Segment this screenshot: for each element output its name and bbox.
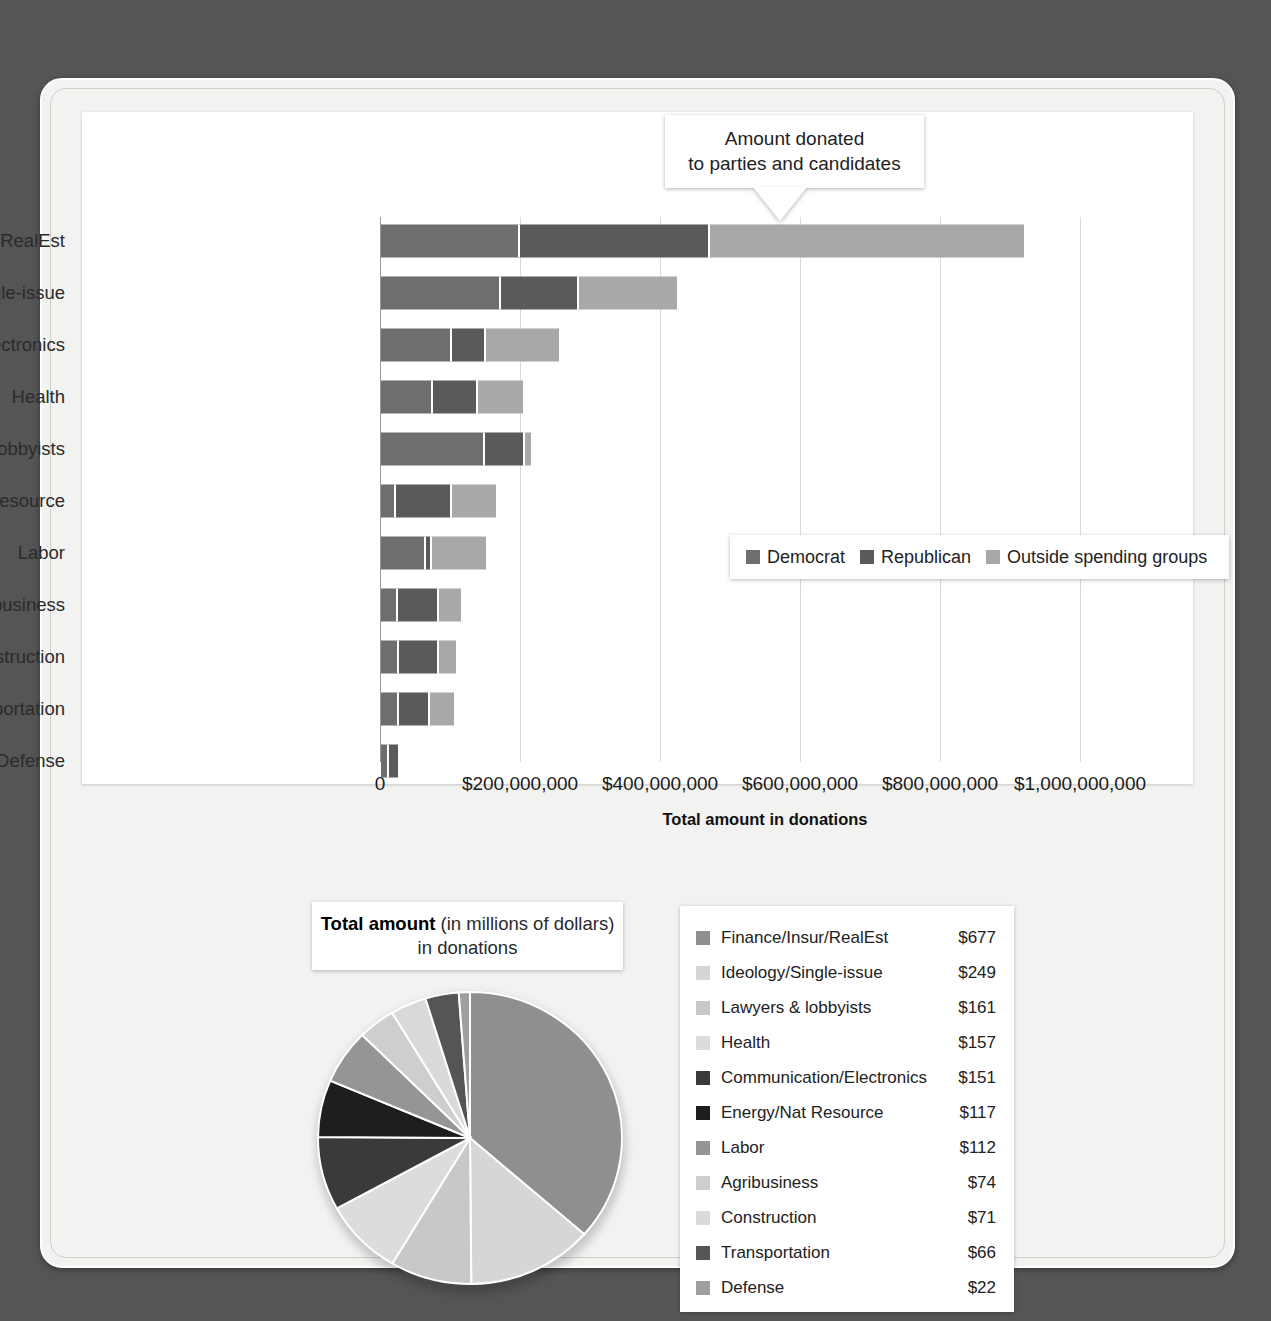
- pie-legend-value: $66: [942, 1243, 996, 1263]
- pie-legend-row: Communication/Electronics$151: [696, 1060, 996, 1095]
- bar-segment: [484, 329, 559, 362]
- bar-legend-item: Democrat: [746, 547, 845, 568]
- legend-swatch-icon: [696, 1281, 710, 1295]
- pie-chart: [310, 980, 630, 1300]
- bar-segment: [381, 589, 396, 622]
- pie-legend-row: Defense$22: [696, 1270, 996, 1305]
- bar-segment: [428, 693, 453, 726]
- bar-category-label: Agribusiness: [0, 594, 65, 616]
- gridline: [940, 217, 941, 762]
- bar-row: [381, 433, 531, 466]
- pie-legend-row: Ideology/Single-issue$249: [696, 955, 996, 990]
- pie-legend-label: Finance/Insur/RealEst: [721, 928, 942, 948]
- gridline: [800, 217, 801, 762]
- bar-segment: [381, 381, 431, 414]
- bar-segment: [518, 225, 708, 258]
- bar-row: [381, 225, 1024, 258]
- bar-row: [381, 693, 454, 726]
- legend-swatch-icon: [696, 966, 710, 980]
- legend-swatch-icon: [696, 1246, 710, 1260]
- pie-legend-value: $71: [942, 1208, 996, 1228]
- bar-segment: [381, 329, 450, 362]
- bar-legend-label: Outside spending groups: [1007, 547, 1207, 568]
- bar-chart-card: Finance/Insur/RealEstIdeology/Single-iss…: [82, 112, 1193, 784]
- pie-legend-value: $157: [942, 1033, 996, 1053]
- bar-segment: [381, 537, 424, 570]
- pie-title-line-2: in donations: [418, 937, 518, 958]
- x-axis-tick-label: $600,000,000: [742, 773, 858, 795]
- legend-swatch-icon: [696, 931, 710, 945]
- pie-chart-title: Total amount (in millions of dollars) in…: [312, 902, 623, 970]
- bar-segment: [476, 381, 523, 414]
- pie-legend-row: Labor$112: [696, 1130, 996, 1165]
- legend-swatch-icon: [696, 1141, 710, 1155]
- legend-swatch-icon: [696, 1106, 710, 1120]
- pie-legend-label: Ideology/Single-issue: [721, 963, 942, 983]
- bar-legend-item: Republican: [860, 547, 971, 568]
- bar-segment: [381, 485, 394, 518]
- x-axis-tick-label: 0: [375, 773, 386, 795]
- bar-segment: [430, 537, 487, 570]
- legend-swatch-icon: [986, 550, 1000, 564]
- callout-line-1: Amount donated: [725, 128, 864, 149]
- legend-swatch-icon: [746, 550, 760, 564]
- pie-legend-row: Construction$71: [696, 1200, 996, 1235]
- bar-segment: [437, 641, 456, 674]
- pie-legend-value: $74: [942, 1173, 996, 1193]
- bar-chart-callout: Amount donated to parties and candidates: [665, 115, 924, 188]
- bar-segment: [450, 329, 484, 362]
- bar-legend-item: Outside spending groups: [986, 547, 1207, 568]
- pie-legend-label: Labor: [721, 1138, 942, 1158]
- legend-swatch-icon: [696, 1211, 710, 1225]
- bar-category-label: Construction: [0, 646, 65, 668]
- bar-category-label: Energy/Natural Resource: [0, 490, 65, 512]
- pie-legend-row: Health$157: [696, 1025, 996, 1060]
- callout-arrow-icon: [753, 187, 807, 221]
- bar-segment: [381, 277, 499, 310]
- pie-legend-label: Construction: [721, 1208, 942, 1228]
- bar-segment: [397, 641, 437, 674]
- bar-segment: [394, 485, 450, 518]
- bar-chart-plot-area: Finance/Insur/RealEstIdeology/Single-iss…: [380, 217, 1150, 762]
- pie-legend-label: Energy/Nat Resource: [721, 1103, 942, 1123]
- x-axis-title: Total amount in donations: [380, 810, 1150, 829]
- pie-legend-row: Agribusiness$74: [696, 1165, 996, 1200]
- bar-segment: [397, 693, 428, 726]
- pie-legend-value: $151: [942, 1068, 996, 1088]
- pie-legend-value: $249: [942, 963, 996, 983]
- bar-legend-label: Democrat: [767, 547, 845, 568]
- bar-row: [381, 329, 559, 362]
- legend-swatch-icon: [696, 1036, 710, 1050]
- x-axis-tick-label: $400,000,000: [602, 773, 718, 795]
- bar-segment: [396, 589, 437, 622]
- legend-swatch-icon: [696, 1001, 710, 1015]
- pie-legend-row: Finance/Insur/RealEst$677: [696, 920, 996, 955]
- bar-segment: [381, 641, 397, 674]
- bar-legend-label: Republican: [881, 547, 971, 568]
- pie-legend-value: $117: [942, 1103, 996, 1123]
- bar-category-label: Communication/Electronics: [0, 334, 65, 356]
- bar-segment: [523, 433, 531, 466]
- pie-chart-svg: [310, 980, 630, 1300]
- pie-legend-label: Lawyers & lobbyists: [721, 998, 942, 1018]
- bar-segment: [431, 381, 476, 414]
- bar-category-label: Defense: [0, 750, 65, 772]
- pie-legend-row: Lawyers & lobbyists$161: [696, 990, 996, 1025]
- bar-segment: [381, 433, 483, 466]
- bar-category-label: Labor: [18, 542, 65, 564]
- bar-segment: [577, 277, 677, 310]
- bar-row: [381, 277, 677, 310]
- pie-legend-value: $161: [942, 998, 996, 1018]
- x-axis-tick-label: $800,000,000: [882, 773, 998, 795]
- pie-legend-value: $677: [942, 928, 996, 948]
- pie-legend-label: Transportation: [721, 1243, 942, 1263]
- bar-category-label: Transportation: [0, 698, 65, 720]
- bar-segment: [437, 589, 461, 622]
- x-axis-tick-label: $1,000,000,000: [1014, 773, 1146, 795]
- pie-legend-label: Agribusiness: [721, 1173, 942, 1193]
- legend-swatch-icon: [696, 1071, 710, 1085]
- bar-chart-legend: DemocratRepublicanOutside spending group…: [730, 535, 1229, 579]
- pie-legend-value: $22: [942, 1278, 996, 1298]
- legend-swatch-icon: [696, 1176, 710, 1190]
- pie-legend-row: Energy/Nat Resource$117: [696, 1095, 996, 1130]
